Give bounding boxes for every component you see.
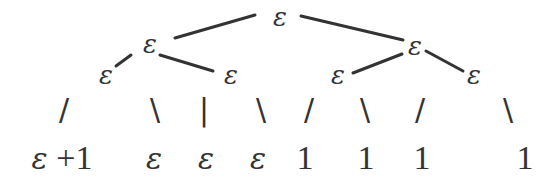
node-right-left: ε	[331, 62, 345, 88]
leaf-1-epsilon: ε	[32, 141, 48, 176]
edge-right-rightright	[426, 51, 463, 71]
connector-2: \	[150, 95, 160, 125]
connector-7: /	[415, 95, 425, 125]
leaf-8: 1	[517, 141, 534, 175]
leaf-8-text: 1	[517, 139, 534, 176]
node-left: ε	[143, 31, 157, 57]
node-root: ε	[273, 4, 287, 30]
leaf-2-epsilon: ε	[146, 141, 162, 176]
edge-root-right	[301, 16, 403, 40]
leaf-2: ε	[146, 141, 162, 175]
leaf-1: ε +1	[32, 141, 93, 175]
edge-root-left	[175, 15, 255, 38]
leaf-6: 1	[358, 141, 375, 175]
leaf-7-text: 1	[414, 139, 431, 176]
leaf-4-epsilon: ε	[250, 141, 266, 176]
leaf-5-text: 1	[297, 139, 314, 176]
connector-5: /	[304, 95, 314, 125]
node-left-left: ε	[99, 62, 113, 88]
connector-3: |	[199, 95, 209, 125]
connector-6: \	[360, 95, 370, 125]
node-right: ε	[408, 33, 422, 59]
leaf-7: 1	[414, 141, 431, 175]
edge-left-leftleft	[116, 55, 131, 66]
node-left-right: ε	[224, 62, 238, 88]
node-right-right: ε	[467, 62, 481, 88]
leaf-5: 1	[297, 141, 314, 175]
leaf-1-text: +1	[48, 139, 93, 176]
edge-right-rightleft	[353, 54, 402, 73]
connector-8: \	[503, 95, 513, 125]
leaf-4: ε	[250, 141, 266, 175]
leaf-3: ε	[198, 141, 214, 175]
connector-4: \	[256, 95, 266, 125]
connector-1: /	[59, 95, 69, 125]
leaf-3-epsilon: ε	[198, 141, 214, 176]
leaf-6-text: 1	[358, 139, 375, 176]
edge-left-leftright	[160, 55, 213, 71]
